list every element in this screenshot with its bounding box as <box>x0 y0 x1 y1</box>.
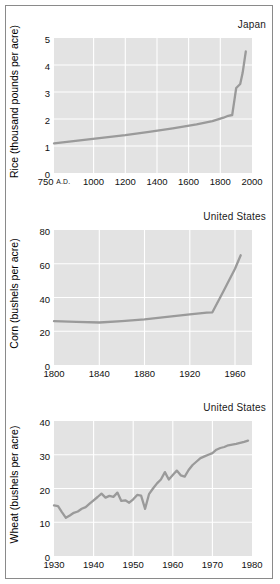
data-line-wheat <box>54 441 248 518</box>
y-tick-wheat-40: 40 <box>26 418 50 427</box>
y-tick-rice-2: 2 <box>26 116 50 125</box>
x-tick-wheat-1980: 1980 <box>241 559 262 570</box>
x-tick-rice-1200: 1200 <box>115 176 136 187</box>
x-tick-corn-1880: 1880 <box>134 368 155 379</box>
y-tick-wheat-20: 20 <box>26 486 50 495</box>
y-tick-corn-60: 60 <box>26 261 50 270</box>
x-tick-rice-2000: 2000 <box>241 176 262 187</box>
annotation-united-states-wheat: United States <box>203 402 266 413</box>
x-tick-rice-1400: 1400 <box>146 176 167 187</box>
figure-panel: Rice (thousand pounds per acre) 5 4 3 2 … <box>5 5 273 579</box>
y-tick-wheat-10: 10 <box>26 519 50 528</box>
gridlines <box>54 38 252 173</box>
plot-area-rice <box>54 38 252 173</box>
x-tick-wheat-1970: 1970 <box>202 559 223 570</box>
y-tick-corn-80: 80 <box>26 227 50 236</box>
y-tick-rice-3: 3 <box>26 89 50 98</box>
x-tick-corn-1960: 1960 <box>224 368 245 379</box>
x-tick-wheat-1930: 1930 <box>43 559 64 570</box>
plot-area-corn <box>54 230 252 365</box>
x-tick-wheat-1940: 1940 <box>83 559 104 570</box>
x-tick-wheat-1950: 1950 <box>123 559 144 570</box>
y-tick-corn-40: 40 <box>26 295 50 304</box>
x-tick-rice-1000: 1000 <box>83 176 104 187</box>
annotation-japan: Japan <box>238 19 266 30</box>
annotation-united-states-corn: United States <box>203 211 266 222</box>
corn-svg <box>54 230 252 365</box>
x-tick-corn-1840: 1840 <box>89 368 110 379</box>
y-axis-label-corn: Corn (bushels per acre) <box>6 198 22 389</box>
wheat-svg <box>54 421 252 556</box>
y-tick-rice-5: 5 <box>26 35 50 44</box>
rice-svg <box>54 38 252 173</box>
x-tick-rice-750: 750 A.D. <box>38 176 71 187</box>
plot-area-wheat <box>54 421 252 556</box>
y-axis-label-wheat: Wheat (bushels per acre) <box>6 389 22 580</box>
chart-rice-japan: Rice (thousand pounds per acre) 5 4 3 2 … <box>6 6 274 197</box>
y-tick-wheat-30: 30 <box>26 452 50 461</box>
y-tick-corn-20: 20 <box>26 328 50 337</box>
x-tick-rice-1600: 1600 <box>178 176 199 187</box>
x-tick-corn-1800: 1800 <box>43 368 64 379</box>
data-line-corn <box>54 255 241 322</box>
y-tick-rice-4: 4 <box>26 62 50 71</box>
x-tick-rice-1800: 1800 <box>210 176 231 187</box>
y-tick-rice-1: 1 <box>26 143 50 152</box>
chart-corn-us: Corn (bushels per acre) 80 60 40 20 0 Un… <box>6 198 274 389</box>
y-axis-label-rice: Rice (thousand pounds per acre) <box>6 6 22 197</box>
x-tick-wheat-1960: 1960 <box>162 559 183 570</box>
gridlines <box>54 230 252 365</box>
x-tick-corn-1920: 1920 <box>179 368 200 379</box>
chart-wheat-us: Wheat (bushels per acre) 40 30 20 10 0 U… <box>6 389 274 580</box>
